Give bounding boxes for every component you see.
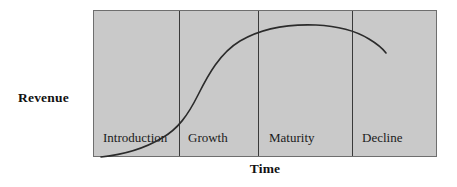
x-axis-title: Time (93, 161, 437, 177)
stage-divider-maturity-decline (352, 11, 353, 156)
stage-divider-growth-maturity (258, 11, 259, 156)
product-life-cycle-chart: Revenue Introduction Growth Maturity Dec… (0, 0, 457, 187)
stage-label-maturity: Maturity (269, 131, 315, 144)
plot-area: Introduction Growth Maturity Decline (93, 10, 437, 157)
stage-label-growth: Growth (188, 131, 228, 144)
stage-label-decline: Decline (362, 131, 402, 144)
stage-divider-introduction-growth (179, 11, 180, 156)
y-axis-title: Revenue (18, 90, 92, 106)
stage-label-introduction: Introduction (103, 131, 167, 144)
